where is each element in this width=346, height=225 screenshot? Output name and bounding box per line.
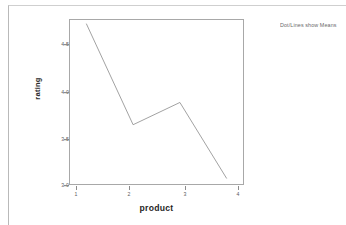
chart-footnote: Dot/Lines show Means (280, 22, 346, 28)
x-axis-title: product (69, 203, 244, 213)
x-tick-mark (238, 186, 239, 190)
output-document-panel: 4.5 4.0 3.5 3.0 rating 1 (8, 5, 346, 225)
y-tick-mark (64, 92, 69, 93)
series-line-mean-rating (86, 24, 226, 179)
x-tick-label-2: 2 (121, 191, 137, 197)
y-tick-3-0: 3.0 (41, 182, 69, 188)
x-tick-label-3: 3 (177, 191, 193, 197)
y-tick-3-5: 3.5 (41, 136, 69, 142)
x-tick-2: 2 (121, 186, 137, 200)
x-tick-mark (129, 186, 130, 190)
x-tick-label-4: 4 (230, 191, 246, 197)
y-tick-mark (64, 139, 69, 140)
screenshot-canvas: 4.5 4.0 3.5 3.0 rating 1 (0, 0, 346, 225)
x-tick-4: 4 (230, 186, 246, 200)
plot-data-area (69, 19, 244, 185)
x-tick-1: 1 (68, 186, 84, 200)
x-tick-3: 3 (177, 186, 193, 200)
y-tick-4-5: 4.5 (41, 41, 69, 47)
x-tick-label-1: 1 (68, 191, 84, 197)
line-chart: 4.5 4.0 3.5 3.0 rating 1 (9, 6, 274, 225)
y-tick-mark (64, 44, 69, 45)
y-axis-title: rating (33, 59, 42, 119)
x-tick-mark (185, 186, 186, 190)
x-tick-mark (76, 186, 77, 190)
y-tick-4-0: 4.0 (41, 89, 69, 95)
